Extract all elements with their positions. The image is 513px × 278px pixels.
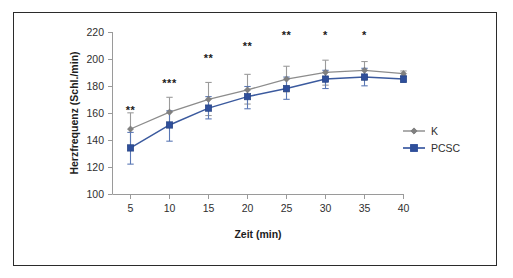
y-tick-label: 120 <box>86 161 104 173</box>
x-tick-label: 5 <box>128 202 134 214</box>
legend-entry-k: K <box>403 125 438 137</box>
x-tick-label: 10 <box>164 202 176 214</box>
data-point-marker <box>205 105 211 111</box>
data-point-marker <box>361 74 367 80</box>
significance-marker: *** <box>162 77 177 89</box>
x-tick-label: 20 <box>242 202 254 214</box>
significance-marker: * <box>323 29 328 41</box>
y-tick-label: 220 <box>86 26 104 38</box>
data-point-marker <box>244 93 250 99</box>
x-tick-label: 40 <box>398 202 410 214</box>
y-tick-label: 200 <box>86 53 104 65</box>
x-tick-label: 30 <box>320 202 332 214</box>
figure-container: 220 200 180 160 140 120 100 5 10 15 20 2… <box>0 0 513 278</box>
data-point-marker <box>127 145 133 151</box>
x-tick-label: 25 <box>281 202 293 214</box>
y-tick-label: 160 <box>86 107 104 119</box>
y-axis-tick-labels: 220 200 180 160 140 120 100 <box>86 26 104 200</box>
x-axis-tick-labels: 5 10 15 20 25 30 35 40 <box>128 202 410 214</box>
legend-marker <box>411 128 417 134</box>
chart-legend: KPCSC <box>403 125 461 154</box>
data-point-marker <box>283 85 289 91</box>
significance-marker: * <box>362 29 367 41</box>
y-axis-title: Herzfrequenz (Schl./min) <box>68 51 80 174</box>
y-tick-label: 100 <box>86 188 104 200</box>
data-point-marker <box>244 87 250 93</box>
significance-marker: ** <box>126 104 136 116</box>
y-tick-label: 180 <box>86 80 104 92</box>
data-point-marker <box>166 122 172 128</box>
y-axis-ticks <box>108 33 113 195</box>
y-tick-label: 140 <box>86 134 104 146</box>
significance-marker: ** <box>282 29 292 41</box>
x-axis-ticks <box>131 195 404 200</box>
significance-marker: ** <box>204 52 214 64</box>
legend-label: K <box>431 125 438 137</box>
data-point-marker <box>166 109 172 115</box>
legend-label: PCSC <box>431 142 461 154</box>
legend-entry-pcsc: PCSC <box>403 142 461 154</box>
x-axis-title: Zeit (min) <box>234 228 281 240</box>
chart-plot-area: 220 200 180 160 140 120 100 5 10 15 20 2… <box>0 0 513 278</box>
x-tick-label: 35 <box>359 202 371 214</box>
x-tick-label: 15 <box>203 202 215 214</box>
data-point-marker <box>322 76 328 82</box>
data-point-marker <box>127 126 133 132</box>
significance-marker: ** <box>243 40 253 52</box>
data-point-marker <box>400 76 406 82</box>
legend-marker <box>411 145 418 152</box>
